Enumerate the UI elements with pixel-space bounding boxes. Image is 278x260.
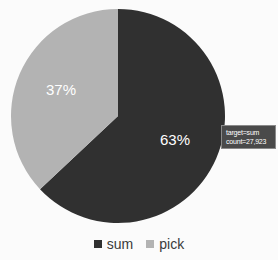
legend-label-sum: sum <box>107 236 133 252</box>
pie-chart-container: 63% 37% target=sum count=27,923 sum pick <box>0 0 278 260</box>
chart-legend: sum pick <box>0 236 278 252</box>
legend-swatch-pick <box>146 240 154 248</box>
tooltip-count-line: count=27,923 <box>226 137 272 146</box>
pie-slice-label-pick: 37% <box>46 81 76 98</box>
tooltip-target-line: target=sum <box>226 128 272 137</box>
legend-item-pick[interactable]: pick <box>146 236 184 252</box>
legend-label-pick: pick <box>159 236 184 252</box>
legend-item-sum[interactable]: sum <box>94 236 133 252</box>
pie-slice-label-sum: 63% <box>160 131 190 148</box>
pie-chart-svg: 63% 37% <box>10 8 226 224</box>
pie-chart-plot-area: 63% 37% <box>10 8 226 224</box>
legend-swatch-sum <box>94 240 102 248</box>
chart-tooltip: target=sum count=27,923 <box>221 125 276 149</box>
